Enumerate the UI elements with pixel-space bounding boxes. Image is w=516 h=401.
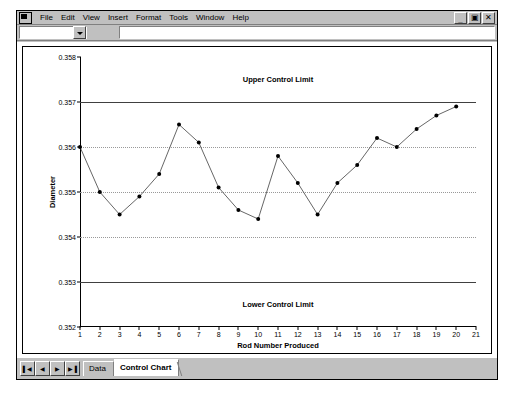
menu-item-format[interactable]: Format [132,12,165,24]
plot-area[interactable]: 0.3580.3570.3560.3550.3540.3530.352Upper… [80,57,476,327]
data-point-marker[interactable] [316,213,320,217]
x-tick-label: 5 [157,331,161,338]
data-point-marker[interactable] [375,136,379,140]
x-tick-label: 21 [472,331,480,338]
menu-item-view[interactable]: View [79,12,104,24]
x-tick-label: 9 [236,331,240,338]
data-point-marker[interactable] [217,186,221,190]
last-sheet-icon[interactable]: ▶▐ [65,361,80,376]
data-point-marker[interactable] [157,172,161,176]
y-tick-label: 0.352 [58,324,76,331]
sheet-tab-data[interactable]: Data [83,361,114,376]
sheet-tabs: Data Control Chart [83,361,186,376]
chart-sheet-body: 0.3580.3570.3560.3550.3540.3530.352Upper… [17,42,497,357]
x-tick-label: 12 [294,331,302,338]
y-axis-title: Diameter [48,176,57,208]
restore-icon: ▣ [469,13,480,22]
x-tick-label: 14 [333,331,341,338]
x-tick-label: 18 [413,331,421,338]
x-tick-label: 17 [393,331,401,338]
data-series [80,57,476,327]
y-tick-label: 0.353 [58,279,76,286]
menu-item-file[interactable]: File [36,12,57,24]
name-box[interactable] [19,26,87,39]
x-tick-label: 16 [373,331,381,338]
data-point-marker[interactable] [177,123,181,127]
menu-item-insert[interactable]: Insert [104,12,132,24]
data-point-marker[interactable] [78,145,82,149]
plot-inner: 0.3580.3570.3560.3550.3540.3530.352Upper… [80,57,476,327]
x-tick-label: 8 [217,331,221,338]
data-point-marker[interactable] [137,195,141,199]
window-controls: _ ▣ ✕ [454,12,495,24]
first-sheet-icon[interactable]: ▌◀ [20,361,35,376]
x-tick-label: 11 [274,331,281,338]
data-point-marker[interactable] [355,163,359,167]
data-point-marker[interactable] [296,181,300,185]
series-line [80,107,456,220]
menu-item-tools[interactable]: Tools [165,12,192,24]
data-point-marker[interactable] [434,114,438,118]
data-point-marker[interactable] [236,208,240,212]
x-tick-label: 7 [197,331,201,338]
menu-item-window[interactable]: Window [192,12,228,24]
next-sheet-icon[interactable]: ▶ [50,361,65,376]
menu-bar: File Edit View Insert Format Tools Windo… [17,11,497,25]
y-tick-label: 0.354 [58,234,76,241]
data-point-marker[interactable] [395,145,399,149]
formula-bar-button-group [89,26,117,39]
sheet-nav-buttons: ▌◀ ◀ ▶ ▶▐ [20,361,80,376]
data-point-marker[interactable] [98,190,102,194]
status-bar-filler [186,362,497,376]
prev-sheet-icon[interactable]: ◀ [35,361,50,376]
x-tick-label: 1 [78,331,82,338]
minimize-icon: _ [455,17,466,22]
chevron-down-icon[interactable] [73,26,86,39]
x-tick-label: 10 [254,331,262,338]
menu-item-help[interactable]: Help [228,12,252,24]
data-point-marker[interactable] [335,181,339,185]
restore-button[interactable]: ▣ [468,12,481,24]
sheet-tab-bar: ▌◀ ◀ ▶ ▶▐ Data Control Chart [17,357,497,379]
x-tick-label: 3 [118,331,122,338]
y-tick-label: 0.357 [58,99,76,106]
data-point-marker[interactable] [276,154,280,158]
data-point-marker[interactable] [197,141,201,145]
x-tick-label: 15 [353,331,361,338]
x-axis-title: Rod Number Produced [237,341,319,350]
chart-frame[interactable]: 0.3580.3570.3560.3550.3540.3530.352Upper… [22,46,492,354]
excel-application-window: File Edit View Insert Format Tools Windo… [16,10,498,380]
y-tick-label: 0.355 [58,189,76,196]
close-button[interactable]: ✕ [482,12,495,24]
y-tick-label: 0.358 [58,54,76,61]
x-tick-label: 19 [432,331,440,338]
x-tick-label: 20 [452,331,460,338]
x-tick-label: 2 [98,331,102,338]
data-point-marker[interactable] [454,105,458,109]
x-tick-label: 6 [177,331,181,338]
sheet-tab-control-chart[interactable]: Control Chart [114,359,180,376]
formula-bar [17,25,497,41]
y-tick-label: 0.356 [58,144,76,151]
data-point-marker[interactable] [118,213,122,217]
minimize-button[interactable]: _ [454,12,467,24]
excel-app-icon[interactable] [19,12,32,24]
data-point-marker[interactable] [415,127,419,131]
close-icon: ✕ [483,13,494,22]
x-tick-label: 4 [137,331,141,338]
data-point-marker[interactable] [256,217,260,221]
menu-item-edit[interactable]: Edit [57,12,79,24]
formula-input[interactable] [119,26,495,39]
x-tick-label: 13 [314,331,322,338]
